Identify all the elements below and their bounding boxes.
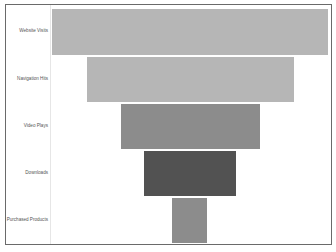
category-label-website-visits: Website Visits [6, 28, 48, 33]
category-label-downloads: Downloads [6, 170, 48, 175]
category-label-purchased-products: Purchased Products [6, 217, 48, 222]
funnel-bar-downloads[interactable] [144, 151, 236, 196]
funnel-bar-navigation-hits[interactable] [87, 57, 294, 102]
axis-separator [50, 5, 51, 244]
funnel-bar-purchased-products[interactable] [172, 198, 207, 243]
funnel-bar-video-plays[interactable] [121, 104, 260, 149]
category-label-video-plays: Video Plays [6, 123, 48, 128]
category-label-navigation-hits: Navigation Hits [6, 76, 48, 81]
funnel-bar-website-visits[interactable] [52, 9, 328, 55]
